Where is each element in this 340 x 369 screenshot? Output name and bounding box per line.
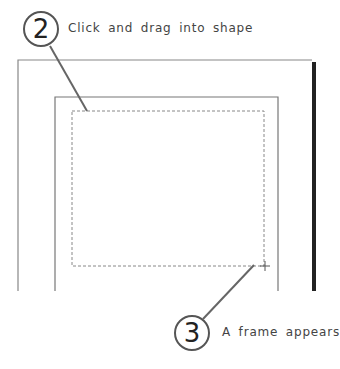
step-2-label: Click and drag into shape <box>68 21 253 35</box>
crosshair-cursor-icon <box>260 261 270 271</box>
step-3-badge: 3 <box>174 315 210 351</box>
outer-frame <box>18 60 312 291</box>
thick-right-bar <box>312 62 316 291</box>
step-3-label: A frame appears <box>222 325 340 339</box>
inner-frame <box>55 97 278 291</box>
dashed-selection-box <box>72 111 264 266</box>
step-2-badge: 2 <box>23 11 59 47</box>
leader-line-3 <box>203 265 254 319</box>
